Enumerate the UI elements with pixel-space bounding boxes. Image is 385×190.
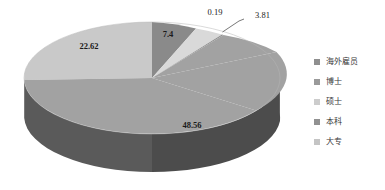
callout-leader-group [223,19,245,32]
legend-item-shuoshi[interactable]: 硕士 [314,92,384,112]
pie-chart-container: 0.19 3.81 7.4 22.62 48.56 海外雇员 博士 硕士 本科 … [0,0,385,190]
data-label-2262: 22.62 [79,41,98,51]
slice-dazhuan [24,22,152,80]
legend-item-label: 本科 [326,118,342,126]
legend-item-label: 大专 [326,138,342,146]
legend-swatch-icon [314,79,320,85]
legend-item-haiwai-guyuan[interactable]: 海外雇员 [314,52,384,72]
legend-swatch-icon [314,59,320,65]
legend-item-benke[interactable]: 本科 [314,112,384,132]
legend-item-label: 博士 [326,78,342,86]
leader-line-019 [223,21,240,32]
legend-item-dazhuan[interactable]: 大专 [314,132,384,152]
chart-legend: 海外雇员 博士 硕士 本科 大专 [314,52,384,152]
data-label-381: 3.81 [255,10,270,20]
legend-swatch-icon [314,99,320,105]
legend-swatch-icon [314,139,320,145]
legend-item-boshi[interactable]: 博士 [314,72,384,92]
legend-item-label: 海外雇员 [326,58,358,66]
legend-swatch-icon [314,119,320,125]
data-label-4856: 48.56 [182,120,201,130]
data-label-019: 0.19 [208,7,223,17]
data-label-74: 7.4 [163,29,174,39]
legend-item-label: 硕士 [326,98,342,106]
leader-line-019-tail [239,19,244,21]
